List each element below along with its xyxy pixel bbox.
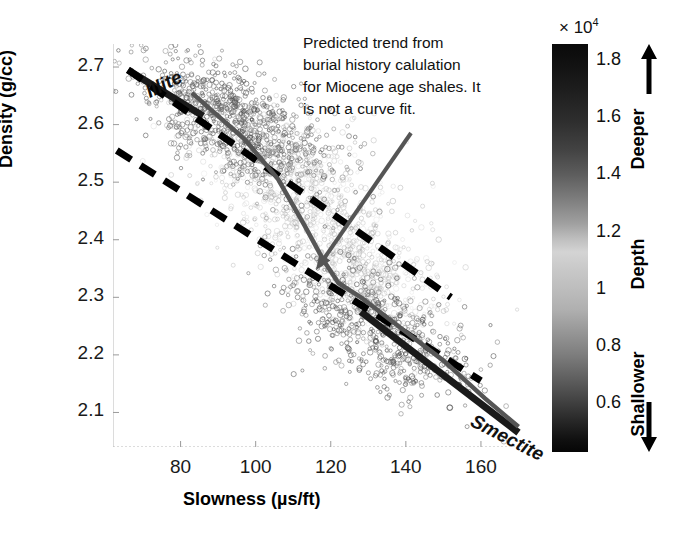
y-tick-label: 2.7 bbox=[78, 54, 104, 76]
x-tick-label: 120 bbox=[301, 456, 361, 478]
x-tick-label: 80 bbox=[151, 456, 211, 478]
x-tick-label: 160 bbox=[451, 456, 511, 478]
colorbar-tick-label: 1.8 bbox=[596, 49, 621, 70]
colorbar-gradient bbox=[552, 44, 588, 452]
colorbar-tick-label: 1.4 bbox=[596, 163, 621, 184]
colorbar-tick-label: 1.6 bbox=[596, 106, 621, 127]
y-tick-label: 2.6 bbox=[78, 112, 104, 134]
annotation-line-2: burial history calulation bbox=[303, 54, 533, 76]
annotation-line-1: Predicted trend from bbox=[303, 32, 533, 54]
y-tick-label: 2.4 bbox=[78, 227, 104, 249]
colorbar-exponent-power: 4 bbox=[593, 16, 599, 28]
x-tick-label: 100 bbox=[226, 456, 286, 478]
predicted-trend-annotation: Predicted trend from burial history calu… bbox=[303, 32, 533, 120]
colorbar-exponent-base: × 10 bbox=[559, 18, 593, 37]
colorbar-tick-label: 1 bbox=[596, 278, 606, 299]
colorbar-tick-label: 0.8 bbox=[596, 335, 621, 356]
y-axis-title: Density (g/cc) bbox=[0, 0, 17, 168]
colorbar-exponent-label: × 104 bbox=[559, 16, 599, 38]
depth-direction-legend: Deeper Depth Shallower bbox=[628, 44, 668, 452]
annotation-line-3: for Miocene age shales. It bbox=[303, 76, 533, 98]
annotation-line-4: is not a curve fit. bbox=[303, 98, 533, 120]
shallower-arrow-icon bbox=[639, 400, 659, 452]
y-tick-label: 2.5 bbox=[78, 169, 104, 191]
y-tick-label: 2.2 bbox=[78, 342, 104, 364]
colorbar-tick-label: 1.2 bbox=[596, 221, 621, 242]
chart-figure: Illite Smectite Density (g/cc) Slowness … bbox=[0, 0, 678, 534]
y-tick-label: 2.3 bbox=[78, 284, 104, 306]
x-axis-title: Slowness (µs/ft) bbox=[183, 489, 320, 510]
colorbar-tick-label: 0.6 bbox=[596, 392, 621, 413]
x-tick-label: 140 bbox=[376, 456, 436, 478]
y-tick-label: 2.1 bbox=[78, 399, 104, 421]
